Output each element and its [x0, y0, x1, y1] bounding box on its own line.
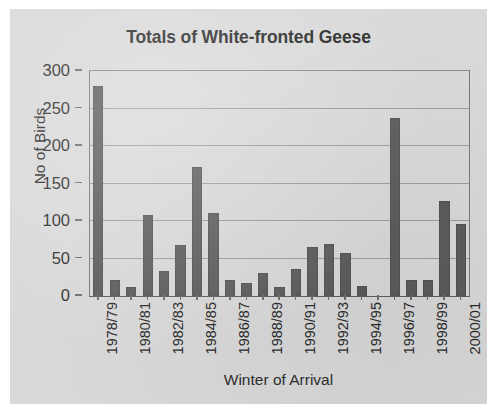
y-axis-tick-label: 0	[61, 286, 70, 305]
y-axis-tick-label: 250	[42, 98, 70, 117]
x-axis-tick	[147, 295, 149, 300]
x-axis-tick	[443, 295, 445, 300]
y-axis-tick	[75, 107, 82, 109]
bar	[225, 280, 235, 296]
x-axis-slot	[237, 300, 253, 376]
x-axis-slot: 1984/85	[188, 300, 204, 376]
bar-slot	[205, 71, 221, 296]
scanned-chart-plate: Totals of White-fronted Geese No of Bird…	[10, 9, 487, 404]
bar-slot	[453, 71, 469, 296]
bar-slot	[90, 71, 106, 296]
y-axis-tick-label: 200	[42, 136, 70, 155]
y-axis-tick-label: 50	[52, 248, 70, 267]
bar-slot	[387, 71, 403, 296]
x-axis-slot: 1982/83	[155, 300, 171, 376]
bar-slot	[370, 71, 386, 296]
x-axis-slot	[138, 300, 154, 376]
x-axis-slot	[204, 300, 220, 376]
bar-slot	[123, 71, 139, 296]
x-axis-slot: 1990/91	[287, 300, 303, 376]
y-axis-tick-labels: 050100150200250300	[30, 61, 82, 304]
y-axis-tick-label: 100	[42, 211, 70, 230]
x-axis-slot	[303, 300, 319, 376]
y-axis-tick	[75, 182, 82, 184]
x-axis-slot: 1988/89	[254, 300, 270, 376]
x-axis-slot	[105, 300, 121, 376]
bar	[423, 280, 433, 297]
bar-slot	[271, 71, 287, 296]
x-axis-tick	[460, 295, 462, 300]
bar-slot	[321, 71, 337, 296]
bar	[456, 224, 466, 296]
bar	[291, 269, 301, 296]
bar	[192, 167, 202, 296]
bar	[258, 273, 268, 296]
x-axis-tick	[229, 295, 231, 300]
x-axis-tick	[196, 295, 198, 300]
bar-slot	[403, 71, 419, 296]
bar	[307, 247, 317, 296]
y-axis-tick	[75, 69, 82, 71]
plot-area	[89, 70, 470, 297]
bar-slot	[354, 71, 370, 296]
x-axis-slot: 1996/97	[386, 300, 402, 376]
bar-slot	[139, 71, 155, 296]
x-axis-slot	[435, 300, 451, 376]
x-axis-title: Winter of Arrival	[89, 371, 468, 389]
bar-slot	[189, 71, 205, 296]
bar-series	[90, 71, 469, 296]
x-axis-tick	[278, 295, 280, 300]
x-axis-slot: 1986/87	[221, 300, 237, 376]
y-axis-tick-label: 150	[42, 173, 70, 192]
x-axis-tick	[130, 295, 132, 300]
x-axis-tick	[394, 295, 396, 300]
x-axis-tick	[180, 295, 182, 300]
bar	[159, 271, 169, 296]
x-axis-tick	[361, 295, 363, 300]
bar	[340, 253, 350, 296]
x-axis-slot	[402, 300, 418, 376]
bar	[175, 245, 185, 296]
bar-slot	[288, 71, 304, 296]
bar	[390, 118, 400, 297]
x-axis-tick-label: 2000/01	[467, 302, 483, 354]
x-axis-tick	[427, 295, 429, 300]
bar-slot	[436, 71, 452, 296]
bar-slot	[420, 71, 436, 296]
x-axis-slot: 1978/79	[89, 300, 105, 376]
chart-title: Totals of White-fronted Geese	[10, 27, 487, 48]
y-axis-tick	[75, 144, 82, 146]
chart-screenshot: Totals of White-fronted Geese No of Bird…	[0, 0, 495, 411]
y-axis-tick	[75, 294, 82, 296]
x-axis-tick	[328, 295, 330, 300]
x-axis-tick	[344, 295, 346, 300]
bar-slot	[222, 71, 238, 296]
x-axis-slot	[270, 300, 286, 376]
x-axis-slot: 1980/81	[122, 300, 138, 376]
x-axis-tick	[377, 295, 379, 300]
x-axis-slot	[369, 300, 385, 376]
bar-slot	[238, 71, 254, 296]
bar	[110, 280, 120, 297]
y-axis-tick	[75, 219, 82, 221]
x-axis-slot	[336, 300, 352, 376]
bar	[439, 201, 449, 296]
x-axis-slot: 1992/93	[320, 300, 336, 376]
bar	[208, 213, 218, 296]
x-axis-tick	[295, 295, 297, 300]
y-axis-tick-label: 300	[42, 61, 70, 80]
y-axis-tick	[75, 257, 82, 259]
x-axis-tick	[410, 295, 412, 300]
bar-slot	[106, 71, 122, 296]
x-axis-tick-labels: 1978/791980/811982/831984/851986/871988/…	[89, 300, 468, 376]
bar-slot	[156, 71, 172, 296]
x-axis-tick	[246, 295, 248, 300]
x-axis-slot	[171, 300, 187, 376]
bar	[93, 86, 103, 296]
x-axis-slot: 1994/95	[353, 300, 369, 376]
bar	[143, 215, 153, 296]
bar-slot	[172, 71, 188, 296]
bar-slot	[304, 71, 320, 296]
x-axis-tick	[114, 295, 116, 300]
x-axis-slot: 2000/01	[452, 300, 468, 376]
